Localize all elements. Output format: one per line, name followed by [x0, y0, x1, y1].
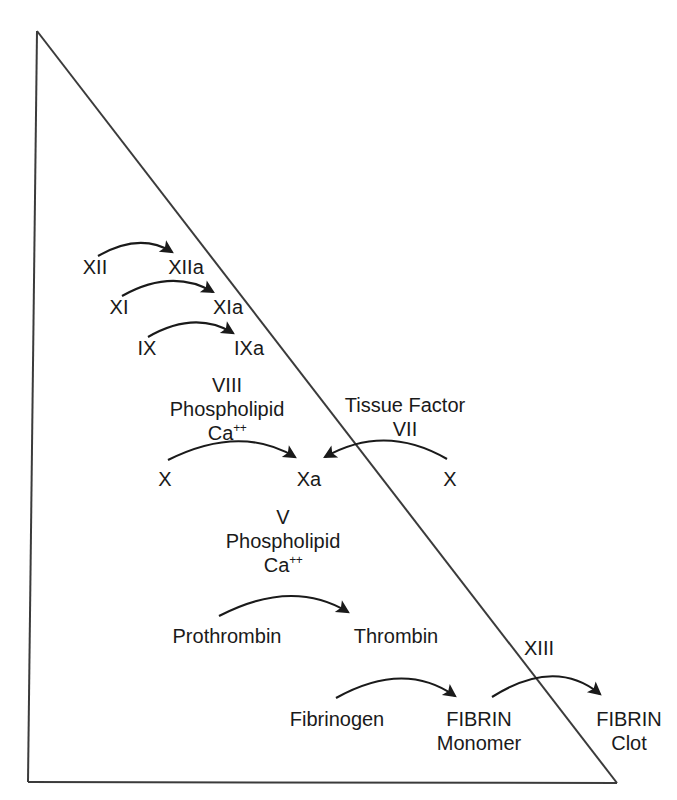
label-thrombin: Thrombin: [354, 625, 438, 649]
label-calcium-common: Ca++: [226, 553, 341, 577]
arrow-xi-to-xia: [122, 281, 213, 296]
label-factor-ix: IX: [138, 337, 157, 361]
calcium-charge-superscript-common: ++: [289, 553, 302, 567]
label-calcium-intrinsic: Ca++: [170, 421, 285, 445]
label-factor-xiii: XIII: [524, 637, 554, 661]
arrow-xii-to-xiia: [98, 243, 172, 256]
label-tissue-factor: Tissue Factor: [345, 394, 465, 418]
label-fibrinogen: Fibrinogen: [290, 708, 385, 732]
label-fibrin-monomer-line2: Monomer: [437, 732, 521, 756]
label-factor-xiia: XIIa: [168, 256, 204, 280]
triangle-left-side: [28, 31, 37, 782]
label-fibrin-clot-line2: Clot: [596, 732, 662, 756]
label-extrinsic-tenase-complex: Tissue Factor VII: [345, 394, 465, 441]
calcium-symbol: Ca: [208, 422, 234, 444]
label-fibrin-monomer-line1: FIBRIN: [437, 708, 521, 732]
label-factor-xa: Xa: [297, 468, 321, 492]
label-factor-v: V: [226, 506, 341, 530]
label-factor-vii: VII: [345, 418, 465, 442]
label-fibrin-monomer: FIBRIN Monomer: [437, 708, 521, 755]
label-factor-viii: VIII: [170, 374, 285, 398]
label-factor-xii: XII: [83, 256, 107, 280]
cascade-canvas: [0, 0, 677, 800]
coagulation-cascade-figure: XII XIIa XI XIa IX IXa VIII Phospholipid…: [0, 0, 677, 800]
label-phospholipid-common: Phospholipid: [226, 530, 341, 554]
arrow-fibrinogen-to-fibrin-monomer: [336, 678, 455, 698]
label-intrinsic-tenase-complex: VIII Phospholipid Ca++: [170, 374, 285, 445]
label-fibrin-clot: FIBRIN Clot: [596, 708, 662, 755]
triangle-hypotenuse: [37, 31, 617, 783]
label-factor-x-extrinsic: X: [443, 468, 456, 492]
label-phospholipid-intrinsic: Phospholipid: [170, 398, 285, 422]
label-factor-xia: XIa: [213, 296, 243, 320]
label-factor-xi: XI: [110, 296, 129, 320]
calcium-symbol-common: Ca: [264, 554, 290, 576]
label-prothrombin: Prothrombin: [173, 625, 282, 649]
label-factor-x-intrinsic: X: [158, 468, 171, 492]
label-prothrombinase-complex: V Phospholipid Ca++: [226, 506, 341, 577]
triangle-bottom-side: [28, 782, 617, 783]
arrow-fibrin-monomer-to-fibrin-clot: [492, 676, 600, 697]
arrow-prothrombin-to-thrombin: [219, 596, 348, 616]
arrow-x-to-xa-extrinsic: [325, 440, 447, 459]
label-fibrin-clot-line1: FIBRIN: [596, 708, 662, 732]
arrow-ix-to-ixa: [148, 322, 233, 337]
label-factor-ixa: IXa: [234, 337, 264, 361]
calcium-charge-superscript: ++: [233, 421, 246, 435]
triangle-frame: [28, 31, 617, 783]
